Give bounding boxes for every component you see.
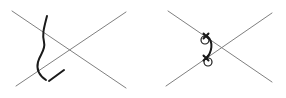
diagram-canvas: [0, 0, 286, 98]
x-cross-left: [12, 11, 126, 88]
left-panel: [12, 11, 126, 88]
circle-marker-top: [201, 34, 209, 45]
circle-marker-bottom: [204, 56, 213, 67]
right-panel: [166, 11, 272, 86]
figure-root: Two hand-drawn X-crossing diagrams Left …: [0, 0, 286, 98]
left-ascending-line: [16, 12, 126, 86]
left-descending-line: [12, 11, 126, 88]
x-cross-right: [166, 11, 272, 86]
right-descending-line: [168, 11, 272, 82]
diagonal-tick-mark: [49, 70, 64, 81]
right-ascending-line: [166, 13, 272, 86]
wavy-vertical-stroke: [37, 16, 47, 80]
